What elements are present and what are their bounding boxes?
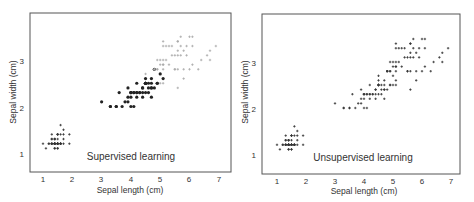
y-tick-label: 2 xyxy=(20,104,25,113)
supervised-scatter-plot: 1 2 3 1 2 3 4 5 6 7 Sepal length (cm) Se… xyxy=(0,0,237,202)
data-point xyxy=(115,105,118,108)
data-point xyxy=(126,96,129,99)
x-tick-label: 6 xyxy=(420,177,425,186)
data-point xyxy=(129,96,132,99)
x-tick-label: 6 xyxy=(187,175,192,184)
panel-annotation: Unsupervised learning xyxy=(313,152,413,163)
data-point xyxy=(147,86,150,89)
unsupervised-scatter-plot: 1 2 3 1 2 3 4 5 6 7 Sepal length (cm) Se… xyxy=(237,0,474,202)
data-point xyxy=(109,105,112,108)
x-axis-label: Sepal length (cm) xyxy=(331,186,398,196)
data-point xyxy=(150,82,153,85)
data-point xyxy=(123,100,126,103)
data-point xyxy=(141,91,144,94)
data-point xyxy=(150,86,153,89)
y-axis-label: Sepal width (cm) xyxy=(240,60,250,123)
y-tick-label: 1 xyxy=(20,150,25,159)
data-point xyxy=(153,86,156,89)
data-point xyxy=(100,100,103,103)
data-point xyxy=(132,105,135,108)
x-tick-label: 1 xyxy=(275,177,280,186)
data-point xyxy=(138,91,141,94)
data-point xyxy=(135,91,138,94)
x-tick-label: 3 xyxy=(333,177,338,186)
data-point xyxy=(147,91,150,94)
x-tick-label: 2 xyxy=(70,175,75,184)
x-ticks: 1 2 3 4 5 6 7 xyxy=(275,177,454,186)
data-point xyxy=(129,105,132,108)
data-point xyxy=(159,72,162,75)
data-point xyxy=(135,82,138,85)
y-axis-label: Sepal width (cm) xyxy=(8,60,18,123)
data-point xyxy=(141,86,144,89)
x-tick-label: 7 xyxy=(449,177,454,186)
x-ticks: 1 2 3 4 5 6 7 xyxy=(41,175,222,184)
x-tick-label: 5 xyxy=(391,177,396,186)
data-point xyxy=(150,77,153,80)
data-point xyxy=(150,96,153,99)
data-point xyxy=(132,91,135,94)
data-point xyxy=(147,82,150,85)
y-tick-label: 3 xyxy=(20,57,25,66)
x-tick-label: 1 xyxy=(41,175,46,184)
data-point xyxy=(141,96,144,99)
data-point xyxy=(129,91,132,94)
x-tick-label: 7 xyxy=(217,175,222,184)
x-tick-label: 5 xyxy=(158,175,163,184)
x-axis-label: Sepal length (cm) xyxy=(97,185,164,195)
y-ticks: 1 2 3 xyxy=(20,57,25,159)
x-tick-label: 3 xyxy=(99,175,104,184)
data-point xyxy=(144,91,147,94)
y-tick-label: 1 xyxy=(252,151,257,160)
y-tick-label: 2 xyxy=(252,105,257,114)
data-point xyxy=(162,77,165,80)
x-tick-label: 2 xyxy=(304,177,309,186)
panel-annotation: Supervised learning xyxy=(87,151,175,162)
x-tick-label: 4 xyxy=(129,175,134,184)
data-point xyxy=(135,96,138,99)
data-point xyxy=(126,100,129,103)
y-ticks: 1 2 3 xyxy=(252,59,257,160)
data-point xyxy=(144,82,147,85)
data-point xyxy=(156,82,159,85)
data-point xyxy=(121,105,124,108)
x-tick-label: 4 xyxy=(362,177,367,186)
data-point xyxy=(126,86,129,89)
data-point xyxy=(118,91,121,94)
data-point xyxy=(144,77,147,80)
y-tick-label: 3 xyxy=(252,59,257,68)
